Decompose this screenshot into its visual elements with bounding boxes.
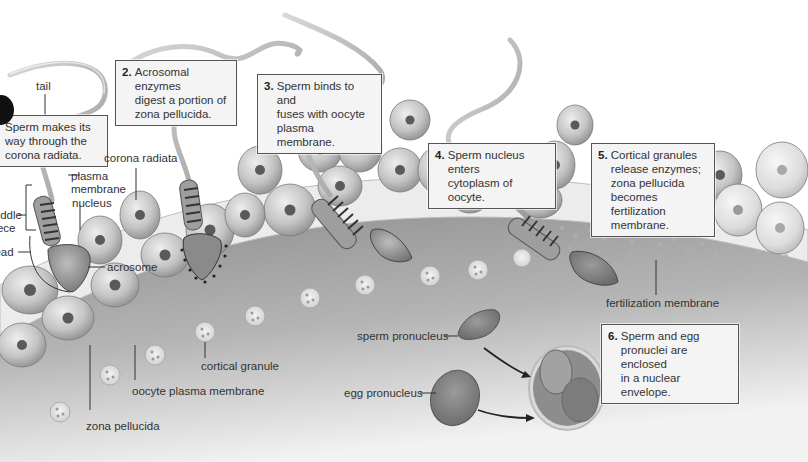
step-3-box: 3. Sperm binds to and fuses with oocyte … (257, 74, 382, 154)
label-tail: tail (36, 80, 51, 93)
label-sperm-pronucleus: sperm pronucleus (357, 330, 448, 343)
label-plasma-membrane: plasma membrane (71, 170, 126, 196)
step-4-number: 4. (435, 148, 445, 204)
label-oocyte-plasma-membrane: oocyte plasma membrane (132, 385, 264, 398)
label-zona-pellucida: zona pellucida (86, 420, 160, 433)
step-4-text: Sperm nucleus enters cytoplasm of oocyte… (448, 148, 549, 204)
step-3-number: 3. (264, 79, 274, 149)
label-head: head (0, 246, 14, 259)
step-5-box: 5. Cortical granules release enzymes; zo… (591, 143, 715, 237)
step-2-number: 2. (122, 65, 132, 121)
label-nucleus: nucleus (72, 197, 112, 210)
step-3-text: Sperm binds to and fuses with oocyte pla… (277, 79, 375, 149)
step-5-number: 5. (598, 148, 608, 232)
step-1-text: Sperm makes its way through the corona r… (5, 120, 91, 162)
label-fertilization-membrane: fertilization membrane (606, 297, 719, 310)
label-cortical-granule: cortical granule (201, 360, 279, 373)
label-acrosome: acrosome (107, 261, 158, 274)
step-2-text: Acrosomal enzymes digest a portion of zo… (135, 65, 230, 121)
label-egg-pronucleus: egg pronucleus (344, 387, 423, 400)
fertilization-diagram: Sperm makes its way through the corona r… (0, 0, 808, 462)
step-4-box: 4. Sperm nucleus enters cytoplasm of ooc… (428, 143, 556, 209)
label-middle-piece: middle piece (0, 209, 22, 235)
step-6-box: 6. Sperm and egg pronuclei are enclosed … (601, 324, 739, 404)
step-6-number: 6. (608, 329, 618, 399)
step-1-box: Sperm makes its way through the corona r… (0, 115, 108, 167)
step-6-text: Sperm and egg pronuclei are enclosed in … (621, 329, 732, 399)
step-2-box: 2. Acrosomal enzymes digest a portion of… (115, 60, 237, 126)
label-corona-radiata: corona radiata (104, 152, 178, 165)
step-5-text: Cortical granules release enzymes; zona … (611, 148, 708, 232)
